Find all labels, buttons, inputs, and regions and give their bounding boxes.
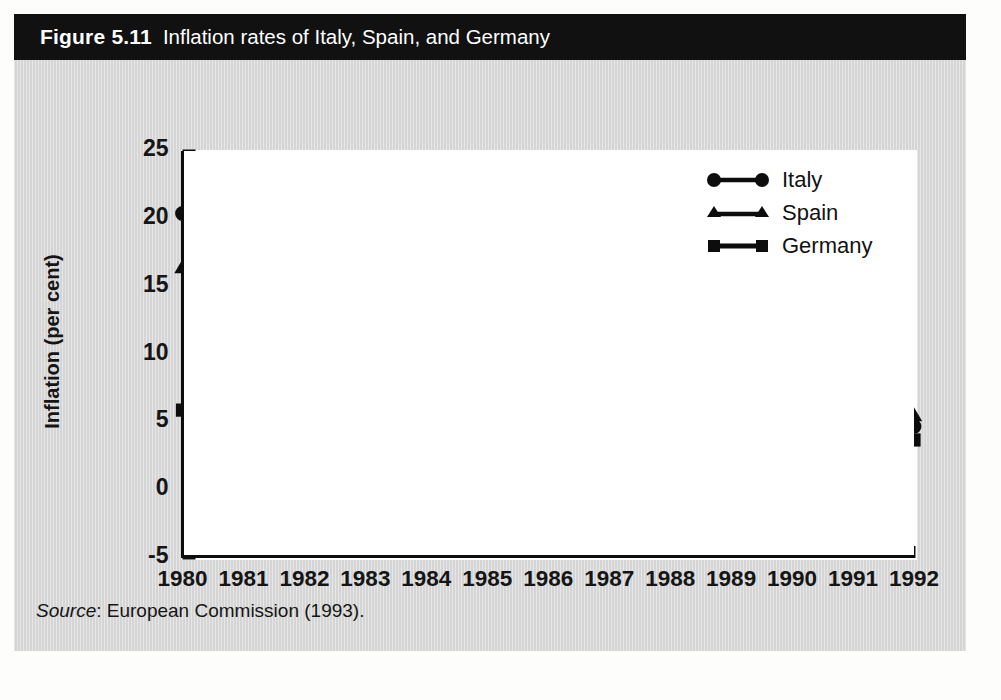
x-tick-label-1980: 1980 xyxy=(148,566,218,592)
x-tick-label-1986: 1986 xyxy=(513,566,583,592)
x-tick-label-1983: 1983 xyxy=(330,566,400,592)
circle-marker-icon xyxy=(706,167,770,193)
x-tick-label-1988: 1988 xyxy=(635,566,705,592)
x-tick-label-1990: 1990 xyxy=(757,566,827,592)
legend-item-germany: Germany xyxy=(706,229,906,262)
x-tick-label-1991: 1991 xyxy=(818,566,888,592)
legend-item-italy: Italy xyxy=(706,163,906,196)
y-axis-label: Inflation (per cent) xyxy=(41,227,64,457)
x-tick-label-1981: 1981 xyxy=(208,566,278,592)
x-tick-label-1982: 1982 xyxy=(269,566,339,592)
source-word: Source xyxy=(36,600,96,621)
x-tick-label-1987: 1987 xyxy=(574,566,644,592)
x-tick-label-1984: 1984 xyxy=(391,566,461,592)
y-tick-label--5: -5 xyxy=(113,542,169,569)
y-tick-label-20: 20 xyxy=(113,203,169,230)
legend-label-germany: Germany xyxy=(782,233,872,259)
figure-source: Source: European Commission (1993). xyxy=(36,600,364,622)
x-tick-label-1992: 1992 xyxy=(879,566,949,592)
source-text: : European Commission (1993). xyxy=(96,600,364,621)
y-tick-label-5: 5 xyxy=(113,406,169,433)
y-tick-label-10: 10 xyxy=(113,339,169,366)
y-tick-label-15: 15 xyxy=(113,271,169,298)
legend-item-spain: Spain xyxy=(706,196,906,229)
y-tick-label-0: 0 xyxy=(113,474,169,501)
chart-legend: Italy Spain Germany xyxy=(706,163,906,262)
x-tick-label-1985: 1985 xyxy=(452,566,522,592)
figure-page: Figure 5.11 Inflation rates of Italy, Sp… xyxy=(0,0,1001,700)
x-tick-label-1989: 1989 xyxy=(696,566,766,592)
triangle-marker-icon xyxy=(706,200,770,226)
y-tick-label-25: 25 xyxy=(113,135,169,162)
legend-label-italy: Italy xyxy=(782,167,822,193)
legend-label-spain: Spain xyxy=(782,200,838,226)
square-marker-icon xyxy=(706,233,770,259)
